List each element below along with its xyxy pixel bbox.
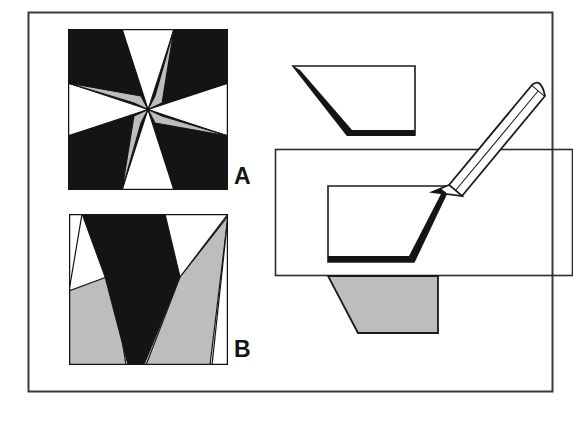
pattern-a-block (68, 29, 228, 190)
trapezoid-top-thick-bottom-edge (347, 130, 415, 136)
figure-canvas: A B (0, 0, 573, 423)
pattern-a-label: A (234, 163, 251, 189)
figure-root: A B (0, 0, 573, 423)
pattern-b-label: B (234, 336, 251, 362)
pattern-b-block (69, 214, 228, 365)
trapezoid-middle-thick-bottom-edge (328, 256, 414, 262)
